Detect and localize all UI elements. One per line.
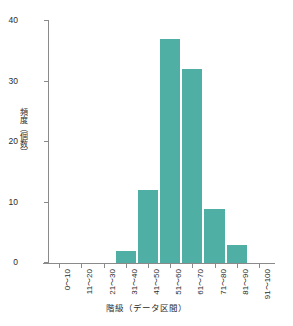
x-tick-mark	[81, 264, 82, 268]
bar	[203, 209, 225, 263]
bar	[159, 39, 181, 263]
y-tick-label: 20	[9, 136, 18, 147]
histogram-figure: 頻度（個数） 010203040 0～1011～2021～3031～4041～5…	[0, 0, 293, 326]
bar-slot	[48, 21, 70, 263]
x-tick-mark	[237, 264, 238, 268]
x-tick-mark	[59, 264, 60, 268]
bar	[137, 190, 159, 263]
y-tick-label: 0	[13, 257, 18, 268]
bar	[181, 69, 203, 263]
bar-slot	[159, 21, 181, 263]
y-axis-title: 頻度（個数）	[11, 108, 27, 156]
x-tick-mark	[148, 264, 149, 268]
bar	[226, 245, 248, 263]
x-axis-line	[43, 263, 275, 264]
x-tick-mark	[104, 264, 105, 268]
x-tick-mark	[126, 264, 127, 268]
y-tick-label: 30	[9, 76, 18, 87]
x-tick-mark	[259, 264, 260, 268]
bar-slot	[181, 21, 203, 263]
bar-slot	[226, 21, 248, 263]
bar-series	[48, 21, 270, 263]
x-tick-mark	[215, 264, 216, 268]
y-tick-label: 10	[9, 197, 18, 208]
x-axis-title: 階級（データ区間）	[0, 303, 293, 314]
bar-slot	[70, 21, 92, 263]
y-tick-label: 40	[9, 15, 18, 26]
bar-slot	[115, 21, 137, 263]
x-tick-mark	[192, 264, 193, 268]
bar-slot	[92, 21, 114, 263]
bar-slot	[248, 21, 270, 263]
x-tick-mark	[170, 264, 171, 268]
bar-slot	[203, 21, 225, 263]
bar	[115, 251, 137, 263]
bar-slot	[137, 21, 159, 263]
